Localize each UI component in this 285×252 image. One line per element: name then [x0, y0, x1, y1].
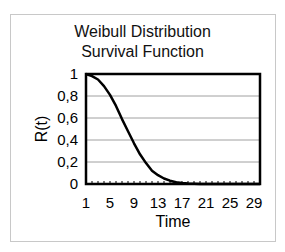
plot-border	[86, 74, 260, 184]
plot-area	[0, 0, 285, 252]
survival-curve	[86, 74, 260, 184]
